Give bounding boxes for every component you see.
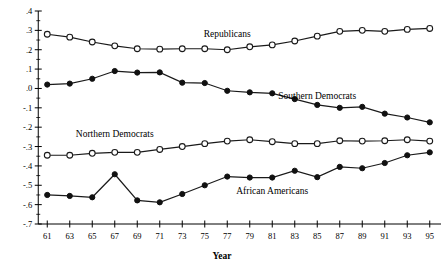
y-tick-label: -.1 — [23, 103, 32, 113]
data-point-marker — [45, 192, 50, 197]
x-tick-label: 91 — [381, 231, 390, 241]
data-point-marker — [180, 191, 185, 196]
data-point-marker — [315, 102, 320, 107]
y-tick-label: .2 — [26, 45, 32, 55]
series-northern-democrats — [44, 137, 432, 158]
data-point-marker — [404, 137, 410, 143]
data-point-marker — [405, 115, 410, 120]
data-point-marker — [359, 138, 365, 144]
y-tick-label: .3 — [26, 25, 32, 35]
data-point-marker — [292, 38, 298, 44]
x-tick-label: 83 — [291, 231, 300, 241]
data-point-marker — [135, 70, 140, 75]
x-tick-label: 85 — [313, 231, 322, 241]
data-point-marker — [337, 28, 343, 34]
series-label-african-americans: African Americans — [236, 186, 308, 196]
x-tick-label: 61 — [43, 231, 52, 241]
data-point-marker — [247, 90, 252, 95]
data-point-marker — [45, 82, 50, 87]
chart-container: .4.3.2.1.0-.1-.2-.3-.4-.5-.6-.7 61636567… — [0, 0, 445, 267]
data-point-marker — [180, 80, 185, 85]
y-tick-label: -.7 — [23, 219, 32, 229]
data-point-marker — [270, 91, 275, 96]
x-axis-title: Year — [213, 251, 233, 261]
data-point-marker — [89, 39, 95, 45]
data-point-marker — [314, 141, 320, 147]
data-point-marker — [90, 195, 95, 200]
series-label-southern-democrats: Southern Democrats — [278, 91, 356, 101]
data-point-marker — [247, 175, 252, 180]
series-polyline — [47, 140, 430, 155]
data-point-marker — [292, 168, 297, 173]
x-tick-label: 69 — [133, 231, 142, 241]
data-point-marker — [67, 193, 72, 198]
data-point-marker — [67, 34, 73, 40]
data-point-marker — [157, 46, 163, 52]
data-point-marker — [382, 160, 387, 165]
data-point-marker — [179, 46, 185, 52]
data-point-marker — [179, 144, 185, 150]
series-label-northern-democrats: Northern Democrats — [76, 129, 154, 139]
data-point-marker — [90, 76, 95, 81]
data-point-marker — [89, 150, 95, 156]
data-point-marker — [225, 174, 230, 179]
series-african-americans — [45, 150, 433, 205]
y-tick-label: .4 — [26, 6, 33, 16]
x-tick-label: 75 — [201, 231, 210, 241]
line-chart: .4.3.2.1.0-.1-.2-.3-.4-.5-.6-.7 61636567… — [0, 0, 445, 267]
y-tick-label: -.3 — [23, 142, 32, 152]
data-point-marker — [225, 88, 230, 93]
y-axis: .4.3.2.1.0-.1-.2-.3-.4-.5-.6-.7 — [23, 6, 42, 229]
data-point-marker — [427, 120, 432, 125]
data-point-marker — [112, 68, 117, 73]
x-axis: 616365676971737577798183858789919395 — [38, 221, 441, 242]
x-tick-label: 67 — [111, 231, 120, 241]
data-point-marker — [112, 149, 118, 155]
data-point-marker — [134, 149, 140, 155]
data-point-marker — [292, 141, 298, 147]
data-point-marker — [157, 200, 162, 205]
x-tick-label: 95 — [426, 231, 435, 241]
data-point-marker — [270, 175, 275, 180]
data-point-marker — [112, 172, 117, 177]
data-point-marker — [247, 137, 253, 143]
data-point-marker — [427, 150, 432, 155]
data-point-marker — [224, 47, 230, 53]
x-tick-label: 63 — [66, 231, 75, 241]
data-point-marker — [337, 105, 342, 110]
data-point-marker — [67, 152, 73, 158]
data-point-marker — [247, 44, 253, 50]
data-point-marker — [157, 147, 163, 153]
series-southern-democrats — [45, 68, 433, 125]
y-tick-label: -.2 — [23, 122, 32, 132]
x-tick-label: 77 — [223, 231, 232, 241]
x-tick-label: 79 — [246, 231, 255, 241]
data-point-marker — [134, 46, 140, 52]
x-tick-label: 89 — [358, 231, 367, 241]
data-point-marker — [202, 183, 207, 188]
data-point-marker — [404, 27, 410, 33]
data-point-marker — [67, 81, 72, 86]
data-point-marker — [382, 138, 388, 144]
x-tick-label: 93 — [403, 231, 412, 241]
data-point-marker — [427, 138, 433, 144]
data-point-marker — [224, 138, 230, 144]
series-polyline — [47, 71, 430, 122]
data-point-marker — [382, 28, 388, 34]
x-tick-label: 87 — [336, 231, 345, 241]
data-point-marker — [427, 26, 433, 32]
data-point-marker — [135, 198, 140, 203]
data-point-marker — [405, 153, 410, 158]
data-point-marker — [360, 166, 365, 171]
data-point-marker — [314, 33, 320, 39]
data-point-marker — [360, 104, 365, 109]
y-tick-label: .1 — [26, 64, 32, 74]
data-point-marker — [202, 141, 208, 147]
series-label-republicans: Republicans — [204, 29, 251, 39]
series-group — [44, 26, 432, 205]
data-point-marker — [382, 111, 387, 116]
data-point-marker — [112, 43, 118, 49]
data-point-marker — [157, 70, 162, 75]
series-labels: RepublicansSouthern DemocratsNorthern De… — [76, 29, 357, 196]
y-tick-label: .0 — [26, 83, 32, 93]
